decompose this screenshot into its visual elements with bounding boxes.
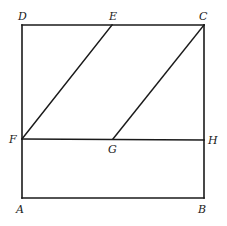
- label-E: E: [108, 10, 117, 23]
- segments: [22, 25, 204, 198]
- label-C: C: [199, 10, 208, 23]
- label-G: G: [108, 143, 117, 156]
- label-H: H: [207, 134, 218, 147]
- label-D: D: [17, 10, 27, 23]
- segment-GC: [113, 25, 204, 139]
- geometry-diagram: A B C D E F G H: [0, 0, 227, 226]
- label-B: B: [197, 203, 206, 216]
- diagram-canvas: A B C D E F G H: [0, 0, 227, 226]
- label-F: F: [8, 133, 17, 146]
- point-labels: A B C D E F G H: [8, 10, 218, 216]
- segment-FE: [22, 25, 112, 139]
- label-A: A: [15, 203, 24, 216]
